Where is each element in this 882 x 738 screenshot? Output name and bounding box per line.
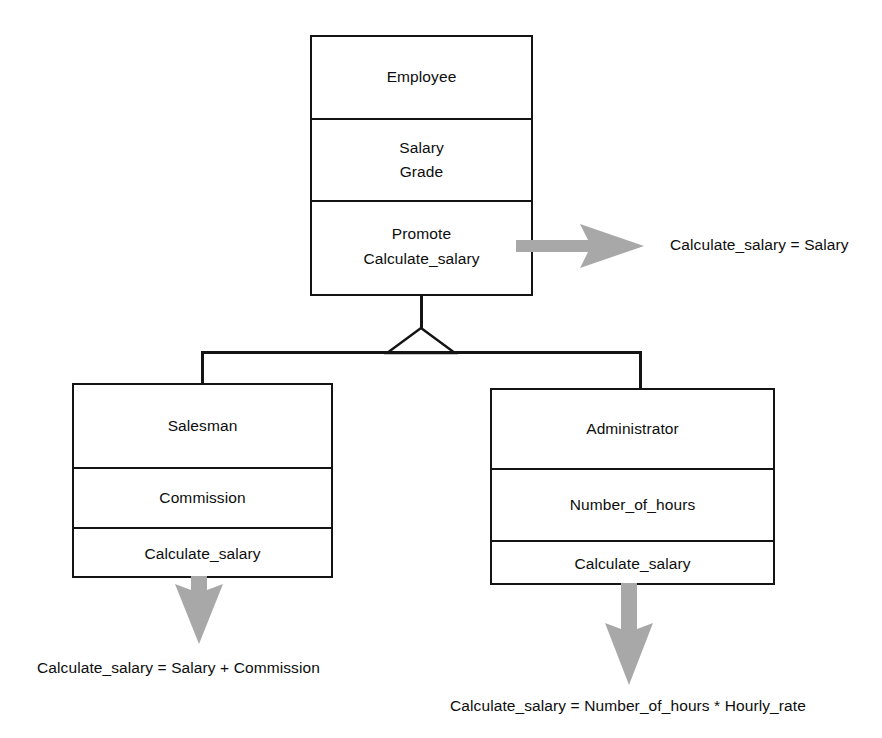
class-name-compartment-employee: Employee [312, 37, 531, 118]
class-box-administrator[interactable]: Administrator Number_of_hours Calculate_… [490, 388, 775, 585]
attribute-item: Salary [399, 136, 444, 160]
class-name-employee: Employee [387, 65, 457, 89]
generalization-branch-salesman [201, 351, 204, 384]
operation-item: Calculate_salary [574, 552, 690, 576]
uml-class-diagram-canvas: Employee Salary Grade Promote Calculate_… [0, 0, 882, 738]
attribute-item: Commission [159, 486, 245, 510]
class-operations-compartment-salesman: Calculate_salary [74, 527, 331, 580]
annotation-arrow-right-icon [516, 222, 646, 270]
class-attributes-compartment-salesman: Commission [74, 467, 331, 527]
generalization-horizontal-bar [201, 351, 642, 354]
operation-item: Calculate_salary [363, 247, 479, 271]
annotation-text-employee: Calculate_salary = Salary [670, 236, 849, 254]
attribute-item: Number_of_hours [570, 493, 696, 517]
generalization-stem-vertical [420, 296, 423, 329]
class-name-salesman: Salesman [168, 414, 238, 438]
class-name-compartment-salesman: Salesman [74, 385, 331, 467]
class-box-salesman[interactable]: Salesman Commission Calculate_salary [72, 383, 333, 578]
operation-item: Calculate_salary [144, 542, 260, 566]
generalization-branch-administrator [639, 351, 642, 389]
annotation-arrow-down-salesman-icon [173, 576, 225, 646]
operation-item: Promote [392, 222, 451, 246]
annotation-arrow-down-administrator-icon [603, 583, 655, 687]
annotation-text-administrator: Calculate_salary = Number_of_hours * Hou… [450, 697, 806, 715]
class-name-compartment-administrator: Administrator [492, 390, 773, 468]
class-attributes-compartment-administrator: Number_of_hours [492, 468, 773, 540]
class-operations-compartment-employee: Promote Calculate_salary [312, 200, 531, 291]
class-name-administrator: Administrator [586, 417, 679, 441]
class-operations-compartment-administrator: Calculate_salary [492, 540, 773, 587]
attribute-item: Grade [400, 160, 444, 184]
annotation-text-salesman: Calculate_salary = Salary + Commission [37, 659, 320, 677]
class-attributes-compartment-employee: Salary Grade [312, 118, 531, 200]
class-box-employee[interactable]: Employee Salary Grade Promote Calculate_… [310, 35, 533, 296]
